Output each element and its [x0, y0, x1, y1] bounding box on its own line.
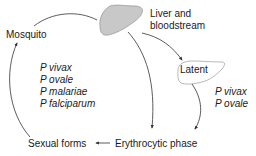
species-item: P vivax [40, 62, 95, 74]
node-mosquito-label: Mosquito [6, 29, 47, 40]
node-liver-label-line1: Liver and [150, 8, 191, 19]
arrow-latent-to-erythrocytic [192, 84, 201, 129]
arrow-sexual-to-mosquito [10, 43, 30, 137]
node-latent-label: Latent [180, 64, 208, 75]
species-list-all: P vivax P ovale P malariae P falciparum [40, 62, 95, 110]
species-item: P vivax [215, 86, 248, 98]
arrow-liver-to-erythrocytic [128, 32, 153, 128]
arrow-mosquito-to-liver [34, 14, 97, 26]
species-item: P malariae [40, 86, 95, 98]
species-item: P ovale [215, 98, 248, 110]
species-item: P ovale [40, 74, 95, 86]
species-list-latent: P vivax P ovale [215, 86, 248, 110]
species-item: P falciparum [40, 98, 95, 110]
node-sexual-forms-label: Sexual forms [28, 138, 86, 149]
malaria-lifecycle-diagram: Mosquito Liver and bloodstream Latent P … [0, 0, 256, 156]
diagram-arrows [0, 0, 256, 156]
node-erythrocytic-phase-label: Erythrocytic phase [115, 138, 197, 149]
arrow-liver-to-latent [142, 33, 182, 60]
liver-icon [100, 5, 143, 35]
node-liver-label-line2: bloodstream [150, 20, 205, 31]
